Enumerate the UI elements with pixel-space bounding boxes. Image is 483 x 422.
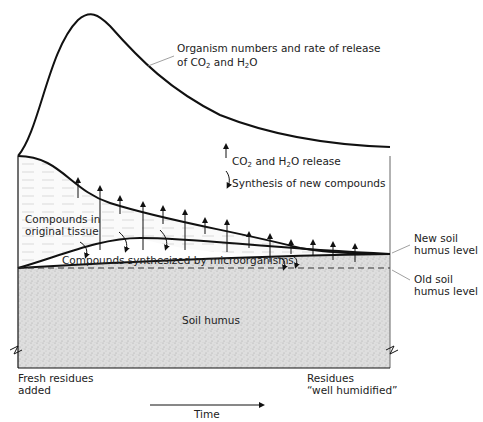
synthesized-compounds-label: Compounds synthesized by microorganisms bbox=[62, 254, 294, 266]
organism-curve-label-line1: Organism numbers and rate of release bbox=[177, 42, 380, 54]
new-level-label-line1: New soil bbox=[414, 232, 458, 244]
residues-humidified-label-line1: Residues bbox=[307, 372, 354, 384]
new-level-leader bbox=[392, 245, 410, 253]
synthesis-arrow bbox=[226, 171, 229, 186]
legend-synthesis-label: Synthesis of new compounds bbox=[232, 177, 385, 189]
soil-humus-label: Soil humus bbox=[182, 314, 240, 326]
old-level-label-line1: Old soil bbox=[414, 273, 453, 285]
original-tissue-label-line1: Compounds in bbox=[25, 213, 100, 225]
soil-humus-diagram: Organism numbers and rate of release of … bbox=[0, 0, 483, 422]
original-tissue-label-line2: original tissue bbox=[25, 225, 99, 237]
fresh-residues-label-line1: Fresh residues bbox=[18, 372, 93, 384]
old-level-leader bbox=[392, 270, 410, 280]
time-label: Time bbox=[193, 408, 220, 420]
old-level-label-line2: humus level bbox=[414, 285, 478, 297]
fresh-residues-label-line2: added bbox=[18, 384, 51, 396]
organism-curve bbox=[18, 14, 390, 156]
residues-humidified-label-line2: “well humidified” bbox=[307, 384, 398, 396]
new-level-label-line2: humus level bbox=[414, 244, 478, 256]
legend-release-label: CO2 and H2O release bbox=[232, 155, 341, 169]
organism-curve-leader bbox=[148, 56, 174, 66]
soil-humus-region bbox=[18, 254, 390, 368]
organism-curve-label-line2: of CO2 and H2O bbox=[177, 56, 258, 70]
